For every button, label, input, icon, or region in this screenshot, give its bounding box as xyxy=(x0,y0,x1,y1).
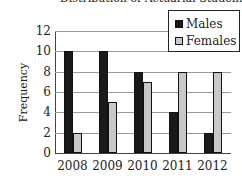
bar-males-2009 xyxy=(99,51,108,153)
x-tick-label: 2010 xyxy=(125,159,160,173)
legend-item-males: Males xyxy=(175,17,223,31)
bar-females-2009 xyxy=(108,102,117,153)
y-tick-label: 0 xyxy=(35,147,51,159)
x-tick-label: 2012 xyxy=(195,159,230,173)
legend-swatch-females xyxy=(175,37,183,45)
legend-item-females: Females xyxy=(175,34,236,48)
y-tick-label: 10 xyxy=(35,45,51,57)
gridline xyxy=(55,72,231,73)
x-tick-label: 2011 xyxy=(160,159,195,173)
y-tick-label: 12 xyxy=(35,25,51,37)
bar-females-2008 xyxy=(73,133,82,153)
bar-females-2011 xyxy=(178,72,187,153)
bar-males-2010 xyxy=(134,72,143,153)
y-tick-label: 4 xyxy=(35,106,51,118)
y-tick-label: 6 xyxy=(35,86,51,98)
bar-males-2008 xyxy=(64,51,73,153)
legend-label-females: Females xyxy=(186,34,236,48)
x-axis xyxy=(55,153,231,154)
x-tick-label: 2009 xyxy=(90,159,125,173)
bar-males-2011 xyxy=(169,112,178,153)
chart-title: Distribution of Actuarial Students xyxy=(60,0,240,5)
legend: Males Females xyxy=(168,10,240,52)
bar-females-2012 xyxy=(213,72,222,153)
bar-males-2012 xyxy=(204,133,213,153)
legend-swatch-males xyxy=(175,20,183,28)
y-axis-label: Frequency xyxy=(17,58,30,128)
legend-label-males: Males xyxy=(186,17,223,31)
bar-females-2010 xyxy=(143,82,152,153)
y-tick-label: 8 xyxy=(35,66,51,78)
y-tick-label: 2 xyxy=(35,127,51,139)
x-tick-label: 2008 xyxy=(55,159,90,173)
